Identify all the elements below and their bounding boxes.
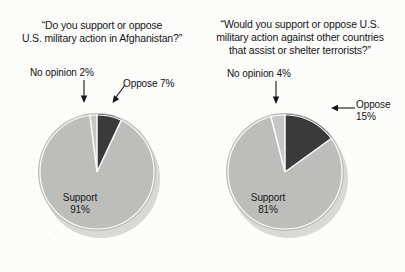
arrow-oppose-right-icon [331, 103, 357, 113]
callout-oppose-left: Oppose 7% [123, 78, 203, 90]
callout-oppose-right: Oppose 15% [356, 99, 404, 123]
arrow-no-opinion-right-icon [272, 81, 286, 105]
arrow-oppose-left-icon [111, 84, 129, 104]
pie-label-support-left: Support 91% [44, 192, 116, 216]
chart-title-left: “Do you support or oppose U.S. military … [14, 19, 190, 45]
callout-no-opinion-left: No opinion 2% [30, 67, 130, 79]
poll-charts-figure: “Do you support or oppose U.S. military … [0, 0, 405, 272]
pie-label-support-right: Support 81% [232, 192, 304, 216]
arrow-no-opinion-left-icon [80, 80, 94, 104]
chart-title-right: “Would you support or oppose U.S. milita… [208, 18, 392, 57]
callout-no-opinion-right: No opinion 4% [227, 68, 327, 80]
